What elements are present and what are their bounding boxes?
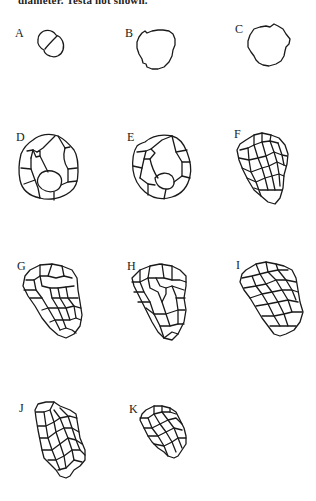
cell-drawing-k [0,0,316,501]
